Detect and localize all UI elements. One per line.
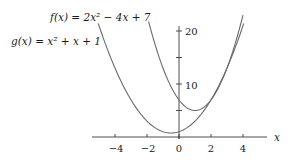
x-tick-label: 2 [208,143,214,154]
y-tick-label: 20 [185,26,198,37]
x-tick-label: −2 [141,143,156,154]
label-f: f(x) = 2x² − 4x + 7 [49,11,151,23]
y-tick-label: 10 [185,80,198,91]
label-g: g(x) = x² + x + 1 [11,35,101,47]
function-plot: f(x) = 2x² − 4x + 7 g(x) = x² + x + 1 x … [0,0,292,162]
x-tick-label: 0 [176,143,182,154]
x-axis-label: x [274,131,280,143]
x-tick-label: −4 [109,143,124,154]
curve-g [98,23,244,133]
x-tick-label: 4 [240,143,246,154]
